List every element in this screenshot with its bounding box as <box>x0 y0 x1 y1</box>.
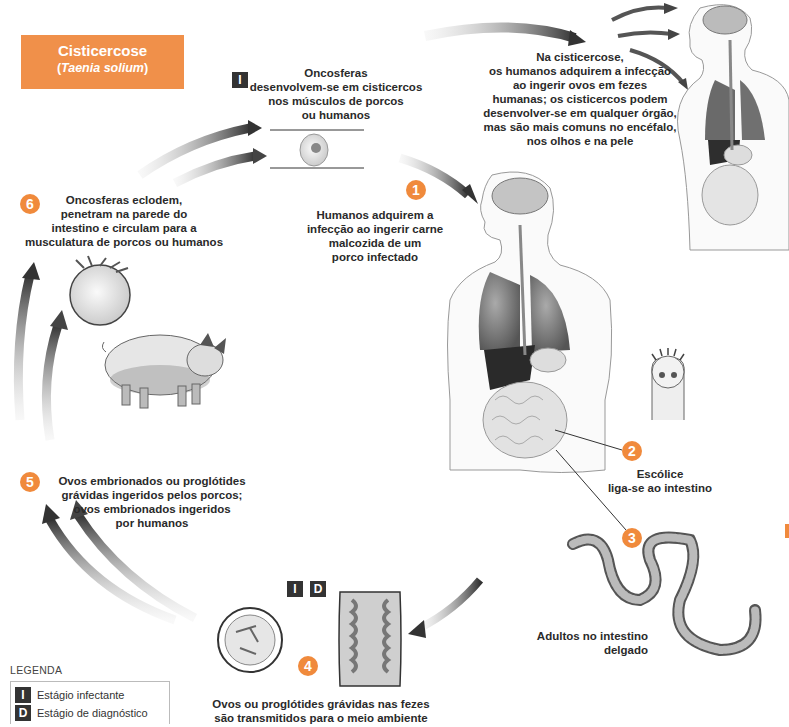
pig-illustration <box>102 333 226 408</box>
offpage-marker <box>785 524 789 538</box>
diagnostic-badge: D <box>15 705 31 721</box>
title-species: Taenia solium <box>61 61 144 75</box>
egg-illustration <box>218 608 282 672</box>
title-species-wrap: (Taenia solium) <box>21 61 184 75</box>
stage-2-number: 2 <box>622 441 642 461</box>
title-main: Cisticercose <box>21 42 184 59</box>
legend-item-label: Estágio infectante <box>37 689 124 701</box>
stage-6-caption: Oncosferas eclodem, penetram na parede d… <box>14 193 234 249</box>
legend: LEGENDA I Estágio infectante D Estágio d… <box>10 664 170 724</box>
cysticerci-note: Oncosferas desenvolvem-se em cisticercos… <box>246 66 426 122</box>
stage-4-number: 4 <box>298 656 318 676</box>
stage-3-number: 3 <box>622 528 642 548</box>
oncosphere-illustration <box>70 256 130 325</box>
stage-1-number: 1 <box>406 180 426 200</box>
stage-4-caption: Ovos ou proglótides grávidas nas fezes s… <box>196 697 446 725</box>
arrow-to-proglottid <box>408 580 480 638</box>
diagram-title: Cisticercose (Taenia solium) <box>21 35 184 89</box>
human-figure-taeniasis <box>448 172 612 473</box>
legend-box: I Estágio infectante D Estágio de diagnó… <box>10 681 170 724</box>
diagnostic-stage-badge: D <box>310 581 326 597</box>
human-figure-cisticercose <box>678 5 789 250</box>
legend-item-infective: I Estágio infectante <box>15 686 165 704</box>
stage-3-caption: Adultos no intestino delgado <box>520 629 648 657</box>
stage-1-caption: Humanos adquirem a infecção ao ingerir c… <box>300 208 450 264</box>
cisticercose-note: Na cisticercose, os humanos adquirem a i… <box>480 50 680 148</box>
legend-item-diagnostic: D Estágio de diagnóstico <box>15 704 165 722</box>
stage-2-caption: Escólice liga-se ao intestino <box>600 467 720 495</box>
legend-item-label: Estágio de diagnóstico <box>37 707 148 719</box>
stage-5-caption-text: Ovos embrionados ou proglótides grávidas… <box>46 474 258 530</box>
stage-5-caption: Ovos embrionados ou proglótides grávidas… <box>46 460 258 544</box>
stage-5-number: 5 <box>20 472 40 492</box>
scolex-illustration <box>652 348 685 420</box>
infective-stage-badge: I <box>287 581 303 597</box>
cysticercus-in-muscle <box>270 130 364 168</box>
legend-title: LEGENDA <box>10 664 170 676</box>
infective-badge: I <box>15 687 31 703</box>
proglottid-illustration <box>339 592 401 686</box>
arrows-stage-6 <box>18 262 68 440</box>
arrow-to-cysticercus <box>140 120 267 183</box>
